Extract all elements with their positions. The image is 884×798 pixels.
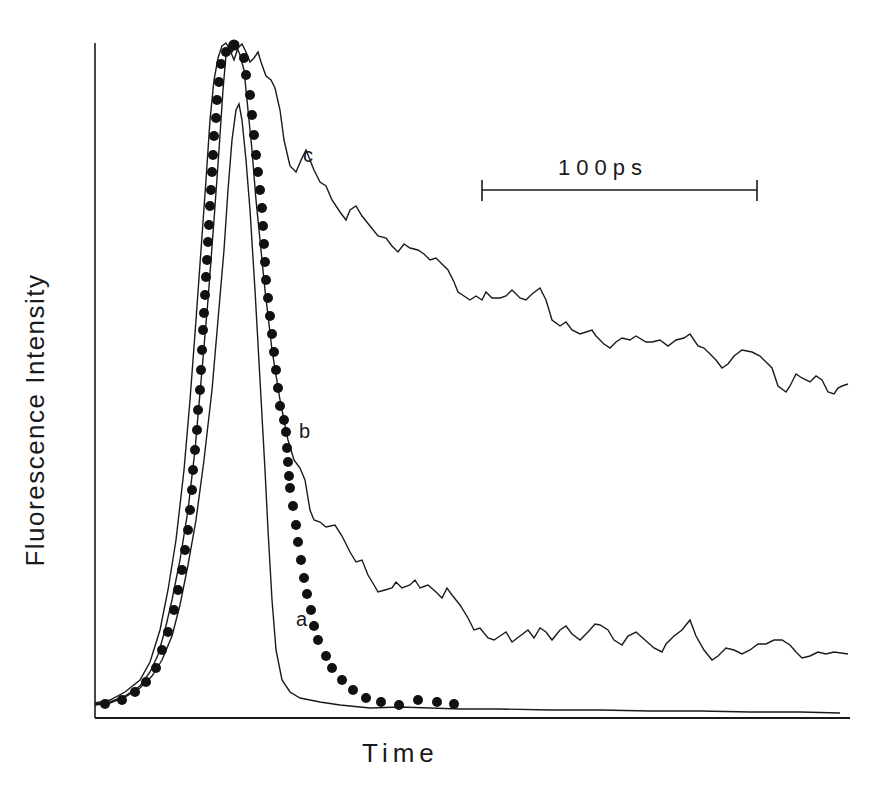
- scale-bar: [482, 180, 757, 201]
- scale-bar-label: 100ps: [558, 155, 648, 181]
- fit-curve-dots: [100, 40, 459, 711]
- curve-c: [95, 43, 848, 703]
- y-axis-label: Fluorescence Intensity: [20, 273, 51, 566]
- x-axis-label: Time: [362, 738, 439, 769]
- fluorescence-decay-figure: Fluorescence Intensity Time 100ps c b a: [0, 0, 884, 798]
- curve-label-b: b: [299, 420, 310, 443]
- curve-label-c: c: [303, 144, 313, 167]
- curve-a: [95, 104, 840, 713]
- curve-label-a: a: [296, 608, 307, 631]
- plot-canvas: [0, 0, 884, 798]
